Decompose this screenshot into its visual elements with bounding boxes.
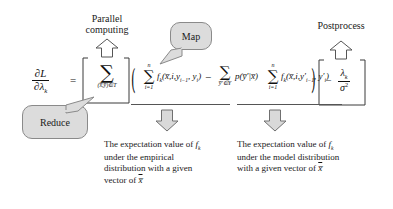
- lhs-fraction: ∂L ∂λk: [32, 68, 49, 94]
- regularizer-numerator: λk: [338, 68, 350, 81]
- right-expectation-rule: [237, 104, 342, 105]
- regularizer-denominator-sup: 2: [345, 81, 348, 88]
- lhs-denominator: ∂λk: [32, 80, 49, 94]
- left-expectation-rule: [131, 104, 230, 105]
- down-arrow-icon: [263, 109, 287, 132]
- right-caption: The expectation value of fk under the mo…: [237, 139, 387, 175]
- right-caption-line2: under the model distribution: [237, 152, 387, 164]
- left-caption-line2: under the empirical: [104, 152, 229, 164]
- model-sum: ∑ y̅′∈Y: [214, 65, 236, 87]
- probability-term: p(y̅′|x̅): [235, 72, 258, 81]
- right-caption-line1: The expectation value of fk: [237, 139, 387, 152]
- speech-tail-icon: [158, 47, 184, 65]
- model-inner-sum-bottom: i=1: [268, 84, 279, 91]
- empirical-sum-bottom: i=1: [144, 84, 155, 91]
- model-inner-sum-operator: n ∑ i=1: [268, 62, 279, 90]
- right-caption-arrow: [263, 109, 287, 132]
- model-inner-sum: n ∑ i=1: [263, 62, 283, 90]
- figure-canvas: Parallel computing Postprocess Map: [0, 0, 393, 209]
- expectation-minus: −: [205, 72, 211, 83]
- up-arrow-icon: [95, 38, 119, 58]
- speech-tail-icon: [64, 96, 96, 114]
- sigma-glyph: ∑: [97, 63, 116, 82]
- parallel-computing-line2: computing: [86, 24, 129, 35]
- map-bubble-tail: [158, 47, 184, 65]
- left-caption-arrow: [155, 109, 179, 132]
- lhs-derivative: ∂L ∂λk: [32, 68, 49, 94]
- lhs-numerator: ∂L: [32, 68, 49, 80]
- regularizer-fraction: λk σ2: [338, 68, 350, 93]
- regularizer-term: λk σ2: [338, 68, 350, 93]
- left-caption-line3: distribution with a given: [104, 163, 229, 175]
- regularizer-minus: −: [326, 76, 332, 86]
- left-caption-line1: The expectation value of fk: [104, 139, 229, 152]
- parallel-computing-arrow: [95, 38, 119, 58]
- close-paren: ): [311, 73, 316, 86]
- left-caption-f-sub: k: [198, 145, 200, 151]
- model-sum-limit: y̅′∈Y: [219, 80, 231, 87]
- empirical-sum-operator: n ∑ i=1: [144, 62, 155, 90]
- regularizer-denominator: σ2: [338, 81, 350, 94]
- postprocess-label: Postprocess: [296, 20, 386, 31]
- left-caption-line4: vector of x̅: [104, 175, 229, 187]
- model-args: (x̅,i,y′: [286, 71, 306, 81]
- outer-sum-limit: (x̅,y̅)∈T: [97, 82, 116, 89]
- regularizer-numerator-sub: k: [345, 73, 348, 80]
- empirical-args-mid: , y: [188, 71, 197, 81]
- right-caption-line3: with a given vector of x̅: [237, 163, 387, 175]
- sigma-glyph: ∑: [144, 69, 155, 84]
- postprocess-arrow: [329, 40, 353, 60]
- outer-sum: ∑ (x̅,y̅)∈T: [89, 63, 125, 89]
- open-paren: (: [131, 73, 136, 86]
- down-arrow-icon: [155, 109, 179, 132]
- parallel-computing-line1: Parallel: [92, 13, 123, 24]
- lhs-denominator-sub: k: [44, 87, 47, 94]
- model-feature-term: fk(x̅,i,y′i−1, y′i): [281, 72, 329, 83]
- left-caption-vector: x̅: [138, 175, 142, 185]
- empirical-args-sub: i−1: [180, 77, 188, 83]
- empirical-args: (x̅,i,y: [162, 71, 180, 81]
- prob-args: (y̅′|x̅): [240, 71, 258, 81]
- map-bubble-label: Map: [182, 31, 200, 42]
- right-caption-f-sub: k: [331, 145, 333, 151]
- right-caption-vector: x̅: [318, 163, 322, 173]
- up-arrow-icon: [329, 40, 353, 60]
- sigma-glyph: ∑: [268, 69, 279, 84]
- outer-sum-operator: ∑ (x̅,y̅)∈T: [97, 63, 116, 89]
- reduce-bubble-label: Reduce: [40, 117, 70, 128]
- empirical-sum: n ∑ i=1: [139, 62, 159, 90]
- sigma-glyph: ∑: [219, 65, 231, 80]
- empirical-feature-term: fk(x̅,i,yi−1, yi): [157, 72, 201, 83]
- reduce-bubble-tail: [64, 96, 96, 114]
- parallel-computing-label: Parallel computing: [63, 13, 151, 35]
- left-caption: The expectation value of fk under the em…: [104, 139, 229, 186]
- model-sum-operator: ∑ y̅′∈Y: [219, 65, 231, 87]
- empirical-args-close: ): [198, 71, 201, 81]
- map-bubble[interactable]: Map: [170, 22, 212, 50]
- postprocess-text: Postprocess: [317, 20, 364, 31]
- equals-sign: =: [70, 75, 76, 86]
